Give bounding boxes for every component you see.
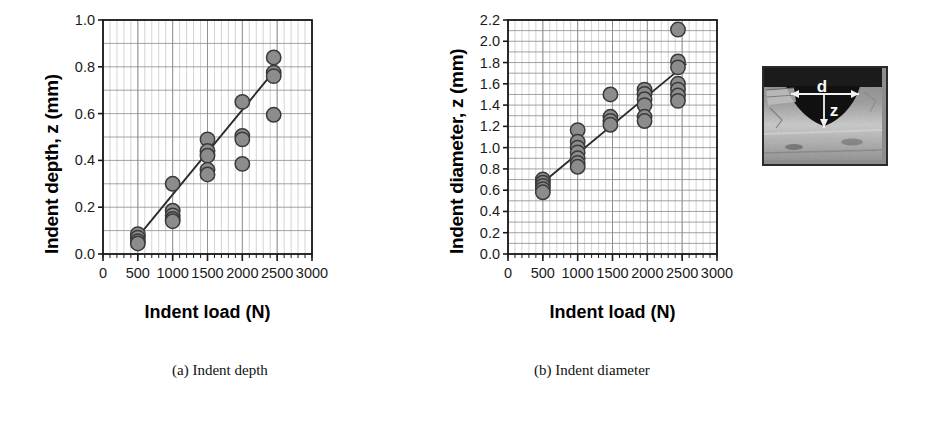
x-tick-label: 500 (126, 265, 150, 281)
y-tick-label: 1.8 (480, 55, 500, 71)
data-point (536, 185, 550, 199)
x-axis-ticks: 050010001500200025003000 (99, 254, 328, 281)
y-tick-label: 0.4 (480, 203, 500, 219)
caption-panel-b: (b) Indent diameter (534, 362, 650, 379)
x-tick-label: 2000 (226, 265, 258, 281)
data-point (266, 50, 280, 64)
y-axis-ticks: 0.00.20.40.60.81.0 (75, 12, 103, 262)
data-point (165, 177, 179, 191)
y-tick-label: 2.2 (480, 12, 500, 28)
y-tick-label: 0.6 (75, 106, 95, 122)
data-point (200, 167, 214, 181)
x-tick-label: 1000 (562, 265, 594, 281)
data-point (131, 236, 145, 250)
chart-panel-indent-diameter: 0.00.20.40.60.81.01.21.41.61.82.02.20500… (400, 0, 745, 330)
inset-label-z: z (830, 101, 839, 120)
x-tick-label: 1000 (157, 265, 189, 281)
x-tick-label: 3000 (701, 265, 733, 281)
indent-cross-section-micrograph: d z (762, 66, 888, 166)
y-tick-label: 0.6 (480, 182, 500, 198)
inset-label-d: d (817, 77, 827, 96)
x-tick-label: 500 (531, 265, 555, 281)
data-point (165, 214, 179, 228)
x-tick-label: 2500 (666, 265, 698, 281)
chart-panel-indent-depth: 0.00.20.40.60.81.00500100015002000250030… (0, 0, 400, 330)
y-tick-label: 1.4 (480, 97, 500, 113)
y-axis-title-b: Indent diameter, z (mm) (446, 49, 468, 254)
x-tick-label: 3000 (296, 265, 328, 281)
figure-root: 0.00.20.40.60.81.00500100015002000250030… (0, 0, 942, 424)
caption-panel-a: (a) Indent depth (172, 362, 268, 379)
y-tick-label: 0.0 (480, 246, 500, 262)
data-point (235, 157, 249, 171)
y-tick-label: 0.2 (75, 199, 95, 215)
y-axis-title-a: Indent depth, z (mm) (41, 74, 63, 254)
y-axis-ticks: 0.00.20.40.60.81.01.21.41.61.82.02.2 (480, 12, 508, 262)
y-tick-label: 1.0 (480, 140, 500, 156)
y-tick-label: 1.6 (480, 76, 500, 92)
data-point (235, 132, 249, 146)
data-point (671, 94, 685, 108)
x-axis-title-a: Indent load (N) (103, 302, 312, 323)
data-point (671, 22, 685, 36)
data-point (671, 60, 685, 74)
x-tick-label: 2500 (261, 265, 293, 281)
x-tick-label: 0 (99, 265, 107, 281)
y-tick-label: 0.8 (75, 59, 95, 75)
y-tick-label: 0.4 (75, 152, 95, 168)
data-point (570, 160, 584, 174)
x-tick-label: 1500 (596, 265, 628, 281)
data-point (200, 149, 214, 163)
data-point (603, 87, 617, 101)
x-tick-label: 1500 (191, 265, 223, 281)
y-tick-label: 0.8 (480, 161, 500, 177)
data-point (637, 114, 651, 128)
x-tick-label: 0 (504, 265, 512, 281)
x-tick-label: 2000 (631, 265, 663, 281)
data-point (235, 95, 249, 109)
micrograph-svg: d z (764, 68, 882, 160)
x-axis-title-b: Indent load (N) (508, 302, 717, 323)
y-tick-label: 2.0 (480, 33, 500, 49)
y-tick-label: 1.0 (75, 12, 95, 28)
data-point (266, 69, 280, 83)
y-tick-label: 0.0 (75, 246, 95, 262)
x-axis-ticks: 050010001500200025003000 (504, 254, 733, 281)
y-tick-label: 0.2 (480, 225, 500, 241)
data-point (266, 108, 280, 122)
data-point (603, 118, 617, 132)
y-tick-label: 1.2 (480, 118, 500, 134)
